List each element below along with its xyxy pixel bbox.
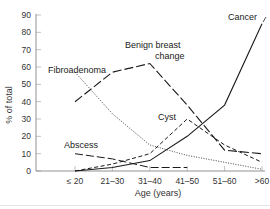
annotation-benign-line1: Benign breast: [125, 40, 181, 50]
annotation-benign-line2: change: [155, 51, 185, 61]
annotation-abscess: Abscess: [64, 140, 99, 150]
y-tick-label: 90: [22, 10, 32, 20]
x-tick-label: ≤ 20: [67, 176, 84, 186]
y-tick-label: 40: [22, 97, 32, 107]
y-tick-label: 20: [22, 131, 32, 141]
series-cyst: [75, 119, 262, 171]
annotation-cyst: Cyst: [158, 112, 176, 122]
x-tick-label: 21–30: [101, 176, 125, 186]
y-tick-label: 80: [22, 27, 32, 37]
x-axis-title: Age (years): [135, 188, 182, 198]
x-tick-label: >60: [255, 176, 270, 186]
annotation-cancer: Cancer: [228, 12, 257, 22]
y-tick-label: 70: [22, 45, 32, 55]
divider: [0, 205, 270, 206]
y-tick-label: 30: [22, 114, 32, 124]
annotation-cancer-leader: [263, 17, 266, 22]
y-axis-title: % of total: [4, 86, 14, 124]
y-tick-label: 60: [22, 62, 32, 72]
y-tick-label: 0: [26, 166, 31, 176]
y-ticks: 0102030405060708090: [22, 10, 41, 176]
y-tick-label: 50: [22, 79, 32, 89]
chart: 0102030405060708090 ≤ 2021–3031–4041–505…: [0, 0, 270, 209]
annotation-fibroadenoma: Fibroadenoma: [48, 65, 106, 75]
x-tick-label: 51–60: [213, 176, 237, 186]
y-tick-label: 10: [22, 149, 32, 159]
x-tick-label: 31–40: [138, 176, 162, 186]
line-chart: 0102030405060708090 ≤ 2021–3031–4041–505…: [0, 0, 270, 209]
series-benign-breast-change: [75, 64, 262, 154]
x-tick-label: 41–50: [175, 176, 199, 186]
series-abscess: [75, 154, 187, 168]
